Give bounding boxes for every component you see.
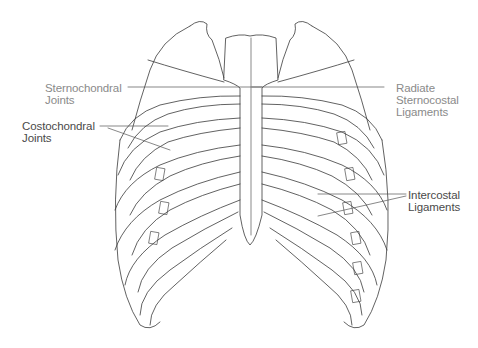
rib-cage-diagram: Sternochondral Joints Costochondral Join… (0, 0, 478, 348)
label-line: Sternochondral (45, 82, 122, 94)
label-line: Sternocostal (396, 94, 459, 106)
left-ribs (115, 96, 240, 328)
right-ribs (262, 96, 388, 328)
label-line: Ligaments (396, 106, 459, 118)
rib-cage-illustration (0, 0, 478, 348)
label-radiate-sternocostal-ligaments: Radiate Sternocostal Ligaments (396, 82, 459, 118)
label-line: Joints (45, 94, 122, 106)
label-line: Radiate (396, 82, 459, 94)
label-line: Joints (22, 132, 95, 144)
label-sternochondral-joints: Sternochondral Joints (45, 82, 122, 106)
label-line: Costochondral (22, 120, 95, 132)
label-intercostal-ligaments: Intercostal Ligaments (408, 189, 460, 213)
label-costochondral-joints: Costochondral Joints (22, 120, 95, 144)
label-line: Ligaments (408, 201, 460, 213)
label-line: Intercostal (408, 189, 460, 201)
